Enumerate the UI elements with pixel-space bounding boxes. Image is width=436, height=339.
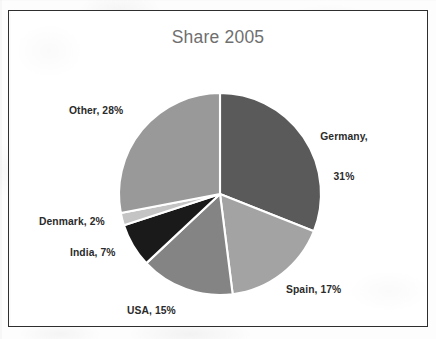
slice-label-spain: Spain, 17%	[286, 283, 341, 296]
slice-label-denmark: Denmark, 2%	[39, 215, 105, 228]
screenshot-root: Share 2005 Germany, 31% Spain, 17% USA, …	[0, 0, 436, 339]
slice-label-germany-line2: 31%	[294, 170, 394, 183]
pie-slice-other[interactable]	[119, 93, 220, 213]
slice-label-germany-line1: Germany,	[294, 130, 394, 143]
slice-label-usa: USA, 15%	[127, 304, 176, 317]
slice-label-india: India, 7%	[70, 246, 116, 259]
pie-slice-group	[119, 93, 321, 295]
slice-label-other: Other, 28%	[69, 104, 123, 117]
slice-label-germany: Germany, 31%	[294, 104, 394, 209]
chart-frame: Share 2005 Germany, 31% Spain, 17% USA, …	[8, 10, 428, 327]
